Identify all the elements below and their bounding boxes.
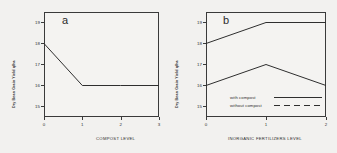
legend-item-with-compost: with compost (230, 93, 322, 101)
legend-swatch-dashed (274, 103, 322, 107)
legend-swatch-solid (274, 95, 322, 99)
figure-canvas: a Dry Bean Grain Yield q/ha 19 18 17 16 … (0, 0, 337, 153)
chart-panel-b: b Dry Bean Grain Yield q/ha 19 18 17 16 … (168, 0, 336, 153)
data-lines-b (168, 0, 336, 153)
legend: with compost without compost (230, 93, 322, 109)
chart-panel-a: a Dry Bean Grain Yield q/ha 19 18 17 16 … (0, 0, 168, 153)
legend-item-without-compost: without compost (230, 101, 322, 109)
legend-label: without compost (230, 103, 274, 108)
legend-label: with compost (230, 95, 274, 100)
data-line-a (0, 0, 168, 153)
